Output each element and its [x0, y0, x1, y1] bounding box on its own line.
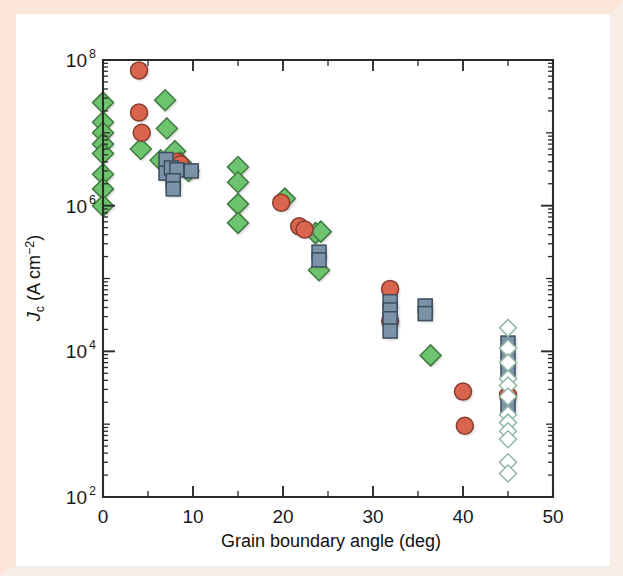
- y-axis-title: Jc (A cm−2): [23, 235, 47, 323]
- data-marker-layer: [93, 62, 519, 482]
- y-tick-label-layer: 102104106108: [66, 47, 96, 508]
- x-tick-label: 40: [452, 506, 473, 527]
- y-tick-label: 104: [66, 338, 96, 362]
- data-point-square: [312, 253, 326, 267]
- svg-text:10: 10: [66, 196, 87, 217]
- data-point-circle: [133, 124, 150, 141]
- x-tick-label: 0: [98, 506, 109, 527]
- x-tick-label: 10: [182, 506, 203, 527]
- scatter-plot: 01020304050 102104106108 Grain boundary …: [0, 0, 623, 576]
- data-point-circle: [273, 194, 290, 211]
- data-point-diamond: [228, 212, 249, 233]
- data-point-circle: [131, 62, 148, 79]
- x-tick-label: 50: [542, 506, 563, 527]
- data-point-diamond: [420, 345, 441, 366]
- svg-text:4: 4: [89, 338, 96, 352]
- y-tick-label: 106: [66, 193, 96, 217]
- svg-text:Jc (A cm−2): Jc (A cm−2): [23, 235, 47, 323]
- svg-text:10: 10: [66, 341, 87, 362]
- series-blue-square-filled: [159, 153, 517, 415]
- data-point-diamond: [155, 90, 176, 111]
- y-tick-label: 102: [66, 484, 96, 508]
- data-point-diamond: [500, 319, 517, 336]
- x-axis-title: Grain boundary angle (deg): [221, 531, 441, 551]
- svg-text:8: 8: [89, 47, 96, 61]
- plot-canvas: 01020304050 102104106108 Grain boundary …: [0, 0, 623, 576]
- svg-text:2: 2: [89, 484, 96, 498]
- svg-text:6: 6: [89, 193, 96, 207]
- data-point-diamond: [228, 172, 249, 193]
- data-point-square: [166, 182, 180, 196]
- x-tick-label: 30: [362, 506, 383, 527]
- data-point-square: [383, 324, 397, 338]
- data-point-circle: [296, 221, 313, 238]
- data-point-circle: [131, 104, 148, 121]
- data-point-diamond: [156, 118, 177, 139]
- data-point-square: [418, 307, 432, 321]
- svg-text:10: 10: [66, 50, 87, 71]
- data-point-diamond: [500, 465, 517, 482]
- x-tick-label-layer: 01020304050: [98, 506, 564, 527]
- svg-text:10: 10: [66, 487, 87, 508]
- data-point-circle: [456, 417, 473, 434]
- x-tick-label: 20: [272, 506, 293, 527]
- data-point-circle: [455, 383, 472, 400]
- y-tick-label: 108: [66, 47, 96, 71]
- data-point-square: [184, 164, 198, 178]
- figure-root: 01020304050 102104106108 Grain boundary …: [0, 0, 623, 576]
